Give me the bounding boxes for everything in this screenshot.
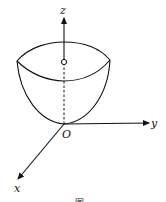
y-axis-label: y bbox=[150, 117, 158, 130]
surface-left-side bbox=[17, 61, 64, 124]
x-axis bbox=[18, 124, 64, 179]
origin-label: O bbox=[62, 128, 71, 141]
figure-caption: 图 bbox=[75, 198, 84, 202]
paraboloid-diagram: z y x O 图 bbox=[0, 0, 166, 202]
y-axis bbox=[64, 123, 149, 124]
x-axis-label: x bbox=[14, 182, 21, 195]
surface-right-side bbox=[64, 60, 110, 124]
point-on-z-axis bbox=[61, 59, 66, 64]
z-axis-label: z bbox=[59, 4, 66, 17]
